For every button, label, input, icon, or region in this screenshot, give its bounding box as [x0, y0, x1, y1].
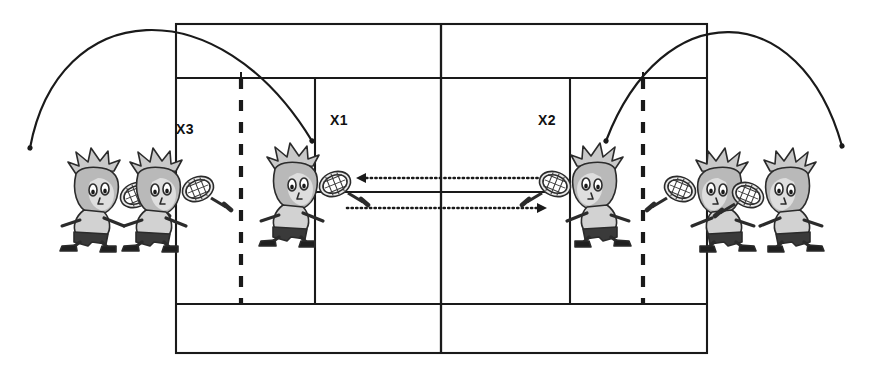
rally-arrow-to-right-head: [537, 203, 547, 213]
player-left-inside: [259, 143, 368, 247]
tennis-court-diagram: X3 X1 X2: [0, 0, 872, 375]
rally-arrow-to-left-head: [356, 173, 366, 183]
ball-trajectories: [30, 30, 842, 148]
court-svg: X3 X1 X2: [0, 0, 872, 375]
player-right-inside: [522, 143, 631, 247]
zone-label-x2: X2: [538, 112, 556, 128]
zone-label-x3: X3: [176, 121, 194, 137]
rally-arrows: [347, 173, 556, 213]
zone-label-x1: X1: [330, 112, 348, 128]
ball-arc-left: [30, 30, 312, 148]
